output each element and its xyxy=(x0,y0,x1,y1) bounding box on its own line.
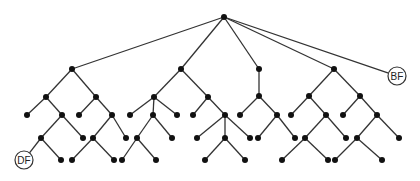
tree-edge xyxy=(305,115,326,138)
tree-node xyxy=(202,157,208,163)
tree-node xyxy=(374,112,380,118)
labeled-node-bf: BF xyxy=(388,67,406,85)
tree-edge xyxy=(93,138,114,160)
tree-edge xyxy=(130,97,154,115)
tree-node xyxy=(80,135,86,141)
tree-node xyxy=(354,135,360,141)
tree-edge xyxy=(309,96,326,115)
tree-edge xyxy=(181,69,208,97)
tree-node xyxy=(255,135,261,141)
tree-node xyxy=(332,157,338,163)
tree-edge xyxy=(62,115,83,138)
labeled-node-text: DF xyxy=(17,155,30,166)
tree-edge xyxy=(282,138,305,160)
tree-edge xyxy=(205,138,225,160)
tree-node xyxy=(76,112,82,118)
search-tree-diagram: BFDF xyxy=(0,0,420,181)
tree-node xyxy=(325,157,331,163)
tree-node xyxy=(174,112,180,118)
tree-node xyxy=(59,112,65,118)
tree-edge xyxy=(309,69,334,96)
tree-edge xyxy=(96,97,112,115)
tree-edge xyxy=(357,138,382,160)
tree-edge xyxy=(137,138,156,160)
tree-node xyxy=(194,135,200,141)
tree-node xyxy=(109,112,115,118)
tree-node xyxy=(69,66,75,72)
tree-edge xyxy=(224,17,334,69)
tree-node xyxy=(323,112,329,118)
tree-node xyxy=(134,135,140,141)
tree-node xyxy=(58,157,64,163)
tree-node xyxy=(69,157,75,163)
tree-node xyxy=(222,135,228,141)
tree-edge xyxy=(224,17,388,73)
labeled-node-df: DF xyxy=(15,151,33,169)
tree-node xyxy=(90,135,96,141)
tree-node xyxy=(119,157,125,163)
tree-node xyxy=(150,112,156,118)
tree-node xyxy=(343,135,349,141)
tree-edge xyxy=(343,96,360,115)
tree-edge xyxy=(197,115,225,138)
tree-edge xyxy=(240,96,259,115)
root-node xyxy=(221,14,227,20)
tree-node xyxy=(256,66,262,72)
tree-edge xyxy=(72,17,224,69)
tree-edge xyxy=(27,97,46,115)
tree-node xyxy=(127,112,133,118)
tree-node xyxy=(190,112,196,118)
tree-edge xyxy=(259,96,277,115)
tree-node xyxy=(357,93,363,99)
tree-node xyxy=(396,135,402,141)
tree-edge xyxy=(46,97,62,115)
tree-edge xyxy=(154,97,177,115)
tree-edge xyxy=(225,115,250,138)
tree-edge xyxy=(137,115,153,138)
tree-edge xyxy=(93,115,112,138)
tree-node xyxy=(38,135,44,141)
tree-edge xyxy=(326,115,346,138)
tree-node xyxy=(123,135,129,141)
tree-edge xyxy=(72,138,93,160)
tree-edge xyxy=(291,96,309,115)
tree-node xyxy=(306,93,312,99)
tree-nodes xyxy=(24,14,402,163)
tree-node xyxy=(279,157,285,163)
tree-node xyxy=(242,157,248,163)
tree-edge xyxy=(357,115,377,138)
tree-node xyxy=(153,157,159,163)
tree-edge xyxy=(360,96,377,115)
tree-edge xyxy=(258,115,277,138)
tree-edge xyxy=(277,115,295,138)
tree-edge xyxy=(122,138,137,160)
tree-edge xyxy=(335,138,357,160)
tree-node xyxy=(379,157,385,163)
tree-edge xyxy=(112,115,126,138)
tree-node xyxy=(222,112,228,118)
tree-node xyxy=(292,135,298,141)
tree-edge xyxy=(41,115,62,138)
tree-node xyxy=(169,135,175,141)
tree-edge xyxy=(154,69,181,97)
tree-edge xyxy=(377,115,399,138)
tree-node xyxy=(340,112,346,118)
tree-edge xyxy=(41,138,61,160)
tree-node xyxy=(93,94,99,100)
tree-node xyxy=(111,157,117,163)
tree-node xyxy=(24,112,30,118)
tree-edge xyxy=(79,97,96,115)
tree-edge xyxy=(334,69,360,96)
tree-node xyxy=(178,66,184,72)
tree-node xyxy=(331,66,337,72)
tree-edge xyxy=(225,138,245,160)
tree-node xyxy=(256,93,262,99)
tree-node xyxy=(205,94,211,100)
tree-edge xyxy=(72,69,96,97)
tree-edge xyxy=(193,97,208,115)
tree-node xyxy=(247,135,253,141)
tree-edge xyxy=(46,69,72,97)
tree-edge xyxy=(305,138,328,160)
tree-node xyxy=(237,112,243,118)
tree-edge xyxy=(208,97,225,115)
